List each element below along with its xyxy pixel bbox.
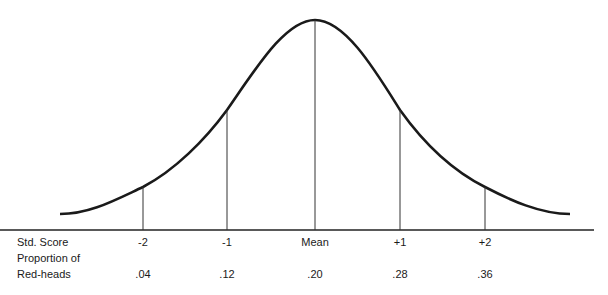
row-label-redheads: Red-heads	[17, 268, 71, 281]
row-label-proportion: Proportion of	[17, 252, 80, 265]
normal-curve-chart	[0, 0, 608, 295]
score-label: Mean	[301, 236, 329, 249]
score-label: +2	[479, 236, 492, 249]
proportion-value: .04	[135, 268, 150, 281]
score-label: -1	[222, 236, 232, 249]
row-label-std-score: Std. Score	[17, 236, 68, 249]
score-label: +1	[394, 236, 407, 249]
proportion-value: .28	[392, 268, 407, 281]
proportion-value: .36	[477, 268, 492, 281]
score-label: -2	[138, 236, 148, 249]
proportion-value: .12	[219, 268, 234, 281]
proportion-value: .20	[307, 268, 322, 281]
